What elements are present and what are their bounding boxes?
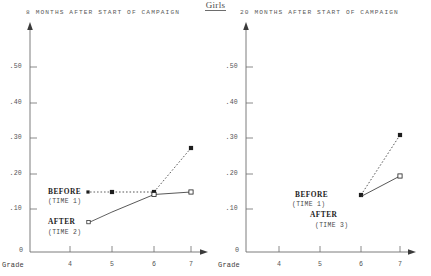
x-axis-arrowhead — [408, 249, 416, 255]
y-tick-label-40: .40 — [220, 99, 238, 106]
annotation-after-time-left: (TIME 2) — [48, 229, 81, 236]
leader-after-marker-left — [87, 220, 90, 223]
x-tick-label-5: 5 — [105, 261, 119, 268]
data-point-before-g5-left — [110, 190, 114, 194]
x-tick-label-5: 5 — [313, 261, 327, 268]
leader-after-left — [90, 212, 112, 222]
y-tick-label-30: .30 — [4, 134, 22, 141]
x-axis-arrowhead — [200, 249, 208, 255]
plot-svg-left — [0, 0, 216, 276]
leader-before-marker-left — [86, 190, 89, 193]
x-tick-label-4: 4 — [63, 261, 77, 268]
y-tick-label-10: .10 — [220, 205, 238, 212]
origin-label: 0 — [19, 246, 23, 254]
series-before-line-left — [112, 148, 191, 192]
annotation-before-time-left: (TIME 1) — [48, 198, 81, 205]
data-point-before-g7-left — [189, 146, 193, 150]
annotation-before-label-left: BEFORE — [48, 187, 81, 196]
x-tick-label-6: 6 — [354, 261, 368, 268]
x-tick-label-4: 4 — [272, 261, 286, 268]
annotation-after-time-right: (TIME 3) — [315, 222, 348, 229]
y-tick-label-50: .50 — [4, 63, 22, 70]
x-axis-label: Grade — [2, 261, 24, 269]
annotation-after-label-left: AFTER — [48, 217, 75, 226]
origin-label: 0 — [235, 246, 239, 254]
plot-svg-right — [216, 0, 431, 276]
data-point-after-g7-left — [189, 190, 193, 194]
annotation-before-time-right: (TIME 1) — [292, 201, 325, 208]
y-tick-label-40: .40 — [4, 99, 22, 106]
x-axis-label: Grade — [218, 261, 240, 269]
y-tick-label-10: .10 — [4, 205, 22, 212]
annotation-after-label-right: AFTER — [310, 210, 337, 219]
data-point-before-g7-right — [398, 133, 402, 137]
y-tick-label-50: .50 — [220, 63, 238, 70]
y-tick-label-20: .20 — [4, 170, 22, 177]
plot-area-left: .50 .40 .30 .20 .10 0 Grade 4 5 6 7 BEFO… — [0, 0, 216, 276]
data-point-after-g7-right — [398, 174, 402, 178]
x-tick-label-7: 7 — [184, 261, 198, 268]
y-axis-arrowhead — [243, 22, 249, 30]
y-tick-label-30: .30 — [220, 134, 238, 141]
panel-8-months: 8 MONTHS AFTER START OF CAMPAIGN — [0, 0, 216, 276]
plot-area-right: .50 .40 .30 .20 .10 0 Grade 4 5 6 7 BEFO… — [216, 0, 431, 276]
x-tick-label-6: 6 — [147, 261, 161, 268]
chart-page: Girls 8 MONTHS AFTER START OF CAMPAIGN — [0, 0, 431, 276]
y-axis-arrowhead — [27, 22, 33, 30]
annotation-before-label-right: BEFORE — [295, 190, 328, 199]
x-tick-label-7: 7 — [393, 261, 407, 268]
data-point-after-g6-left — [152, 192, 156, 196]
panel-20-months: 20 MONTHS AFTER START OF CAMPAIGN — [216, 0, 431, 276]
y-tick-label-20: .20 — [220, 170, 238, 177]
